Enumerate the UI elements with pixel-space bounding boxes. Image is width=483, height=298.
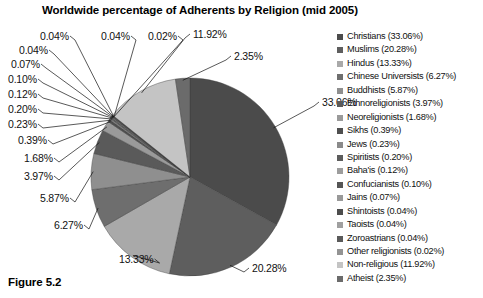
figure-caption: Figure 5.2 — [8, 276, 61, 288]
pie-callout-label: 0.04% — [101, 30, 130, 42]
callout-leader-line — [70, 172, 93, 202]
legend-item[interactable]: Taoists (0.04%) — [337, 219, 483, 232]
legend-item-label: Baha'is (0.12%) — [347, 165, 408, 176]
callout-leader-line — [49, 50, 114, 117]
legend-item-label: Taoists (0.04%) — [347, 219, 407, 230]
legend-item-label: Other religionists (0.02%) — [347, 246, 444, 257]
legend-item-label: Neoreligionists (1.68%) — [347, 112, 436, 123]
legend-swatch-icon — [337, 74, 343, 80]
legend-item[interactable]: Neoreligionists (1.68%) — [337, 112, 483, 125]
legend-item-label: Sikhs (0.39%) — [347, 125, 401, 136]
legend-item-label: Jains (0.07%) — [347, 192, 400, 203]
legend-item-label: Jews (0.23%) — [347, 139, 400, 150]
legend-swatch-icon — [337, 222, 343, 228]
pie-callout-label: 0.07% — [11, 58, 40, 70]
legend-item[interactable]: Baha'is (0.12%) — [337, 165, 483, 178]
pie-slice-group — [91, 78, 289, 276]
legend-swatch-icon — [337, 61, 343, 67]
legend-swatch-icon — [337, 47, 343, 53]
callout-leader-line — [70, 36, 114, 117]
pie-callout-label: 2.35% — [234, 50, 263, 62]
figure-container: Worldwide percentage of Adherents by Rel… — [0, 0, 483, 298]
legend-swatch-icon — [337, 155, 343, 161]
legend-item[interactable]: Jains (0.07%) — [337, 192, 483, 205]
legend-item-label: Confucianists (0.10%) — [347, 179, 432, 190]
legend-item[interactable]: Jews (0.23%) — [337, 139, 483, 152]
legend-item-label: Chinese Universists (6.27%) — [347, 71, 456, 82]
legend-item[interactable]: Ethnoreligionists (3.97%) — [337, 98, 483, 111]
legend-swatch-icon — [337, 209, 343, 215]
legend-item-label: Christians (33.06%) — [347, 31, 423, 42]
callout-leader-line — [84, 208, 98, 229]
pie-callout-label: 0.04% — [19, 44, 48, 56]
legend-swatch-icon — [337, 262, 343, 268]
pie-callout-label: 6.27% — [54, 219, 83, 231]
callout-leader-line — [183, 56, 231, 80]
legend-item-label: Muslims (20.28%) — [347, 44, 417, 55]
legend-swatch-icon — [337, 236, 343, 242]
legend-item-label: Buddhists (5.87%) — [347, 85, 418, 96]
pie-callout-label: 1.68% — [24, 152, 53, 164]
legend-swatch-icon — [337, 34, 343, 40]
legend-item[interactable]: Atheist (2.35%) — [337, 273, 483, 286]
legend-swatch-icon — [337, 128, 343, 134]
callout-leader-line — [38, 94, 113, 118]
legend-swatch-icon — [337, 101, 343, 107]
legend-item[interactable]: Spiritists (0.20%) — [337, 152, 483, 165]
legend-item[interactable]: Zoroastrians (0.04%) — [337, 233, 483, 246]
legend-item-label: Hindus (13.33%) — [347, 58, 412, 69]
legend-item[interactable]: Buddhists (5.87%) — [337, 85, 483, 98]
legend-swatch-icon — [337, 195, 343, 201]
legend-item[interactable]: Non-religious (11.92%) — [337, 259, 483, 272]
legend-item-label: Non-religious (11.92%) — [347, 259, 435, 270]
legend-item-label: Zoroastrians (0.04%) — [347, 233, 428, 244]
callout-leader-line — [274, 102, 319, 128]
legend-item[interactable]: Confucianists (0.10%) — [337, 179, 483, 192]
pie-callout-label: 3.97% — [24, 170, 53, 182]
legend-item[interactable]: Shintoists (0.04%) — [337, 206, 483, 219]
legend-swatch-icon — [337, 182, 343, 188]
callout-leader-line — [230, 265, 249, 272]
legend-item-label: Atheist (2.35%) — [347, 273, 406, 284]
legend-swatch-icon — [337, 249, 343, 255]
callout-leader-line — [38, 79, 113, 118]
legend-item-label: Shintoists (0.04%) — [347, 206, 417, 217]
legend-item[interactable]: Sikhs (0.39%) — [337, 125, 483, 138]
legend-swatch-icon — [337, 115, 343, 121]
callout-leader-line — [38, 120, 112, 128]
pie-callout-label: 0.20% — [8, 103, 37, 115]
legend-swatch-icon — [337, 168, 343, 174]
legend-item[interactable]: Chinese Universists (6.27%) — [337, 71, 483, 84]
pie-callout-label: 0.12% — [8, 88, 37, 100]
legend-item-label: Spiritists (0.20%) — [347, 152, 412, 163]
pie-callout-label: 0.10% — [8, 73, 37, 85]
legend-item[interactable]: Muslims (20.28%) — [337, 44, 483, 57]
pie-callout-label: 0.02% — [148, 30, 177, 42]
legend-item[interactable]: Other religionists (0.02%) — [337, 246, 483, 259]
legend-item[interactable]: Christians (33.06%) — [337, 31, 483, 44]
legend-item[interactable]: Hindus (13.33%) — [337, 58, 483, 71]
legend-swatch-icon — [337, 142, 343, 148]
pie-callout-label: 11.92% — [193, 28, 227, 40]
pie-callout-label: 20.28% — [252, 262, 286, 274]
pie-callout-label: 0.23% — [8, 118, 37, 130]
legend-item-label: Ethnoreligionists (3.97%) — [347, 98, 443, 109]
pie-callout-label: 0.04% — [40, 30, 69, 42]
legend-swatch-icon — [337, 276, 343, 282]
legend-swatch-icon — [337, 88, 343, 94]
pie-callout-label: 13.33% — [119, 253, 153, 265]
pie-callout-label: 0.39% — [18, 134, 47, 146]
callout-leader-line — [41, 64, 114, 117]
callout-leader-line — [38, 109, 112, 119]
pie-callout-label: 5.87% — [40, 192, 69, 204]
chart-legend: Christians (33.06%)Muslims (20.28%)Hindu… — [337, 31, 483, 286]
